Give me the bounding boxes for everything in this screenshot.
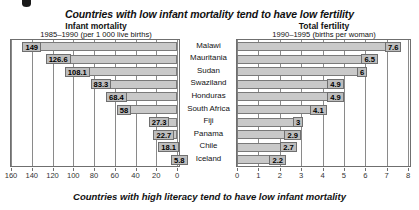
axis-tick-label: 80 [90, 171, 98, 180]
country-label: Chile [181, 141, 236, 151]
axis-tick-label: 140 [25, 171, 38, 180]
bar-value-label: 149 [22, 42, 41, 52]
bar-value-label: 4.9 [327, 92, 344, 102]
axis-tick-label: 0 [235, 171, 239, 180]
footer-title: Countries with high literacy tend to hav… [0, 191, 419, 202]
bar-row: 83.3 [11, 80, 179, 89]
bar-value-label: 83.3 [91, 79, 112, 89]
axis-tick-label: 6 [363, 171, 367, 180]
infant-mortality-chart: 149126.6108.183.368.45827.322.718.15.8 [10, 39, 180, 167]
axis-tick-label: 4 [320, 171, 324, 180]
bar-row: 2.2 [237, 155, 410, 164]
axis-tick-label: 1 [256, 171, 260, 180]
axis-tick-label: 3 [299, 171, 303, 180]
bar [237, 67, 365, 76]
bar-row: 18.1 [11, 143, 179, 152]
bar-row: 3 [237, 118, 410, 127]
country-label: Honduras [181, 91, 236, 101]
bar-row: 6 [237, 67, 410, 76]
bar-value-label: 2.9 [284, 130, 301, 140]
country-label: South Africa [181, 104, 236, 114]
bar-value-label: 4.9 [327, 79, 344, 89]
bar-value-label: 7.6 [385, 42, 402, 52]
right-panel-subtitle: 1990–1995 (births per woman) [236, 30, 412, 39]
axis-tick-label: 7 [385, 171, 389, 180]
bar-row: 68.4 [11, 92, 179, 101]
country-label-column: MalawiMauritaniaSudanSwazilandHondurasSo… [181, 39, 236, 167]
axis-tick-label: 5 [342, 171, 346, 180]
axis-tick-label: 20 [152, 171, 160, 180]
bar-row: 7.6 [237, 42, 410, 51]
bar-value-label: 68.4 [106, 92, 127, 102]
bar-value-label: 6.5 [361, 54, 378, 64]
bar-row: 4.9 [237, 92, 410, 101]
axis-tick-label: 120 [46, 171, 59, 180]
bar-row: 4.9 [237, 80, 410, 89]
country-label: Malawi [181, 41, 236, 51]
bar [237, 80, 342, 89]
bar-value-label: 2.7 [280, 142, 297, 152]
bar-value-label: 27.3 [149, 117, 170, 127]
total-fertility-chart: 7.66.564.94.94.132.92.72.2 [236, 39, 411, 167]
axis-tick-label: 160 [5, 171, 18, 180]
axis-tick-label: 40 [131, 171, 139, 180]
bar-row: 58 [11, 105, 179, 114]
axis-tick-label: 60 [111, 171, 119, 180]
bar-value-label: 108.1 [65, 67, 90, 77]
left-panel-subtitle: 1985–1990 (per 1 000 live births) [10, 30, 182, 39]
bar-value-label: 2.2 [269, 155, 286, 165]
total-fertility-axis: 012345678 [236, 168, 411, 182]
country-label: Sudan [181, 66, 236, 76]
infant-mortality-axis: 160140120100806040200 [10, 168, 180, 182]
bar-row: 4.1 [237, 105, 410, 114]
bar-value-label: 4.1 [310, 105, 327, 115]
bar-row: 149 [11, 42, 179, 51]
bar [237, 92, 342, 101]
country-label: Iceland [181, 154, 236, 164]
bar-row: 2.9 [237, 130, 410, 139]
bar-value-label: 18.1 [158, 142, 179, 152]
bar-value-label: 3 [293, 117, 303, 127]
bar-row: 22.7 [11, 130, 179, 139]
bar [237, 42, 399, 51]
bar-row: 6.5 [237, 55, 410, 64]
bar-row: 5.8 [11, 155, 179, 164]
bar-row: 126.6 [11, 55, 179, 64]
bar-row: 108.1 [11, 67, 179, 76]
bar-row: 2.7 [237, 143, 410, 152]
bar [237, 55, 376, 64]
country-label: Fiji [181, 116, 236, 126]
bar-value-label: 126.6 [46, 54, 71, 64]
country-label: Panama [181, 129, 236, 139]
bar-value-label: 58 [117, 105, 131, 115]
axis-tick-label: 2 [278, 171, 282, 180]
axis-tick-label: 100 [67, 171, 80, 180]
bar-value-label: 22.7 [153, 130, 174, 140]
axis-tick-label: 8 [406, 171, 410, 180]
country-label: Mauritania [181, 53, 236, 63]
bar [22, 42, 177, 51]
page-corner-mark [22, 0, 31, 7]
axis-tick-label: 0 [175, 171, 179, 180]
country-label: Swaziland [181, 78, 236, 88]
bar-row: 27.3 [11, 118, 179, 127]
bar-value-label: 6 [357, 67, 367, 77]
main-title: Countries with low infant mortality tend… [0, 8, 419, 20]
bar [237, 118, 301, 127]
